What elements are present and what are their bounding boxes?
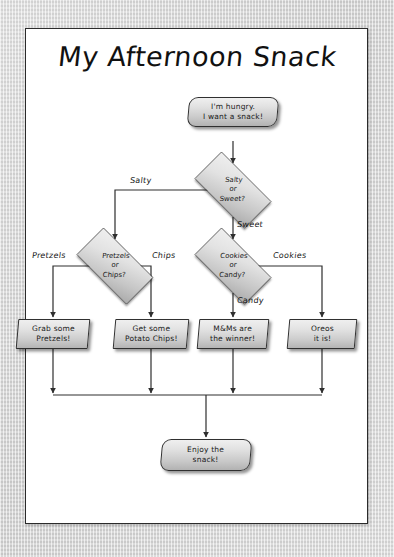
node-start-label: I'm hungry. I want a snack! <box>203 102 263 122</box>
node-end-label: Enjoy the snack! <box>187 445 224 465</box>
edge-label-candy: Candy <box>236 296 264 305</box>
node-decision-cookies-candy-label: Cookies or Candy? <box>181 239 286 293</box>
node-result-oreos[interactable]: Oreos it is! <box>287 319 358 349</box>
flowchart-page: My Afternoon Snack <box>25 28 368 524</box>
node-result-pretzels[interactable]: Grab some Pretzels! <box>16 319 91 349</box>
node-start[interactable]: I'm hungry. I want a snack! <box>187 97 280 127</box>
node-end[interactable]: Enjoy the snack! <box>160 439 253 471</box>
node-result-mms-label: M&Ms are the winner! <box>210 324 255 344</box>
edge-label-pretzels: Pretzels <box>31 251 66 260</box>
node-result-chips-label: Get some Potato Chips! <box>125 324 178 344</box>
node-decision-pretzels-chips[interactable]: Pretzels or Chips? <box>65 239 165 293</box>
edge-label-sweet: Sweet <box>236 220 263 229</box>
node-decision-cookies-candy[interactable]: Cookies or Candy? <box>183 239 283 293</box>
node-decision-pretzels-chips-label: Pretzels or Chips? <box>63 239 168 293</box>
node-result-mms[interactable]: M&Ms are the winner! <box>197 319 270 349</box>
node-result-pretzels-label: Grab some Pretzels! <box>32 324 75 344</box>
node-decision-salty-sweet-label: Salty or Sweet? <box>181 163 286 217</box>
edge-label-chips: Chips <box>151 251 176 260</box>
node-decision-salty-sweet[interactable]: Salty or Sweet? <box>183 163 283 217</box>
edge-label-salty: Salty <box>129 176 152 185</box>
edge-label-cookies: Cookies <box>272 251 307 260</box>
node-result-chips[interactable]: Get some Potato Chips! <box>113 319 190 349</box>
node-result-oreos-label: Oreos it is! <box>311 324 334 344</box>
